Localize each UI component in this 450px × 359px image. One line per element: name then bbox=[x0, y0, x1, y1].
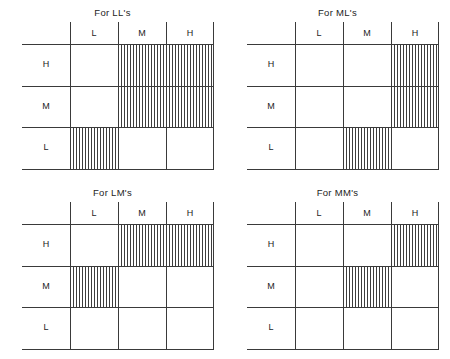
hatched-cell bbox=[70, 266, 118, 308]
grid-line-vertical bbox=[343, 202, 344, 349]
row-header-m: M bbox=[247, 266, 295, 308]
grid-line-vertical bbox=[70, 202, 71, 349]
column-header-m: M bbox=[118, 22, 166, 44]
hatched-cell bbox=[343, 127, 391, 169]
grid-line-vertical bbox=[213, 202, 214, 349]
chart-title-mm: For MM's bbox=[225, 187, 450, 198]
hatched-cell bbox=[391, 86, 438, 128]
chart-panel-ll: For LL's L M H H M L bbox=[0, 0, 225, 179]
hatched-cell bbox=[391, 44, 438, 86]
grid-line-vertical bbox=[70, 22, 71, 169]
matrix-mm: L M H H M L bbox=[247, 202, 439, 349]
charts-grid: For LL's L M H H M L For ML's L M bbox=[0, 0, 450, 359]
hatched-cell bbox=[166, 44, 213, 86]
grid-line-vertical bbox=[295, 202, 296, 349]
hatched-cell bbox=[118, 86, 166, 128]
chart-panel-mm: For MM's L M H H M L bbox=[225, 180, 450, 359]
grid-line-vertical bbox=[343, 22, 344, 169]
matrix-ml: L M H H M L bbox=[247, 22, 439, 169]
grid-line-vertical bbox=[391, 202, 392, 349]
chart-panel-lm: For LM's L M H H M L bbox=[0, 180, 225, 359]
row-header-m: M bbox=[247, 86, 295, 128]
hatched-cell bbox=[343, 266, 391, 308]
grid-line-vertical bbox=[118, 202, 119, 349]
row-header-h: H bbox=[247, 224, 295, 266]
chart-panel-ml: For ML's L M H H M L bbox=[225, 0, 450, 179]
column-header-h: H bbox=[391, 22, 439, 44]
hatched-cell bbox=[118, 44, 166, 86]
hatched-cell bbox=[391, 224, 438, 266]
column-header-l: L bbox=[70, 202, 118, 224]
row-header-m: M bbox=[22, 86, 70, 128]
column-header-m: M bbox=[118, 202, 166, 224]
row-header-l: L bbox=[247, 127, 295, 169]
matrix-ll: L M H H M L bbox=[22, 22, 214, 169]
grid-line-vertical bbox=[118, 22, 119, 169]
column-header-l: L bbox=[70, 22, 118, 44]
grid-line-vertical bbox=[166, 22, 167, 169]
column-header-l: L bbox=[295, 22, 343, 44]
grid-line-vertical bbox=[391, 22, 392, 169]
row-header-l: L bbox=[22, 127, 70, 169]
hatched-cell bbox=[166, 86, 213, 128]
row-header-h: H bbox=[22, 44, 70, 86]
row-header-h: H bbox=[22, 224, 70, 266]
row-header-m: M bbox=[22, 266, 70, 308]
row-header-h: H bbox=[247, 44, 295, 86]
grid-line-vertical bbox=[438, 22, 439, 169]
hatched-cell bbox=[118, 224, 166, 266]
hatched-cell bbox=[70, 127, 118, 169]
column-header-h: H bbox=[391, 202, 439, 224]
chart-title-ll: For LL's bbox=[0, 7, 225, 18]
chart-title-lm: For LM's bbox=[0, 187, 225, 198]
hatched-cell bbox=[166, 224, 213, 266]
grid-line-vertical bbox=[438, 202, 439, 349]
row-header-l: L bbox=[247, 307, 295, 349]
column-header-h: H bbox=[166, 202, 214, 224]
column-header-m: M bbox=[343, 22, 391, 44]
column-header-h: H bbox=[166, 22, 214, 44]
matrix-lm: L M H H M L bbox=[22, 202, 214, 349]
footer-clipped-text bbox=[0, 350, 450, 359]
column-header-m: M bbox=[343, 202, 391, 224]
column-header-l: L bbox=[295, 202, 343, 224]
grid-line-vertical bbox=[295, 22, 296, 169]
row-header-l: L bbox=[22, 307, 70, 349]
grid-line-vertical bbox=[166, 202, 167, 349]
chart-title-ml: For ML's bbox=[225, 7, 450, 18]
grid-line-vertical bbox=[213, 22, 214, 169]
